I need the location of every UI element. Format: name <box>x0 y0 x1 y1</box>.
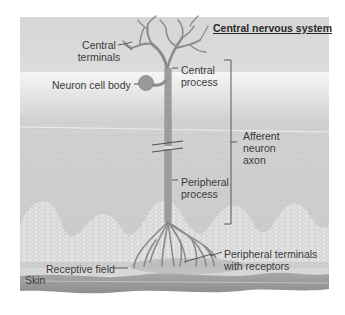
label-peripheral-terminals-line1: Peripheral terminals <box>224 248 317 260</box>
label-skin: Skin <box>25 274 45 286</box>
neuron-cell-body-shape <box>139 76 154 91</box>
afferent-neuron-diagram: Central nervous system Central terminals… <box>0 0 345 315</box>
label-central-terminals-line2: terminals <box>76 51 122 63</box>
label-central-process: Central process <box>181 64 218 88</box>
label-afferent-neuron-axon: Afferent neuron axon <box>243 130 280 166</box>
label-receptive-field: Receptive field <box>46 263 115 275</box>
label-central-terminals-line1: Central <box>76 39 122 51</box>
label-neuron-cell-body: Neuron cell body <box>52 79 131 91</box>
label-peripheral-terminals: Peripheral terminals with receptors <box>224 248 317 272</box>
label-peripheral-process-line1: Peripheral <box>181 176 229 188</box>
label-central-process-line2: process <box>181 76 218 88</box>
label-afferent-neuron-axon-line3: axon <box>243 154 280 166</box>
label-peripheral-process-line2: process <box>181 188 229 200</box>
label-peripheral-terminals-line2: with receptors <box>224 260 317 272</box>
region-title-cns: Central nervous system <box>213 22 332 34</box>
label-central-terminals: Central terminals <box>76 39 122 63</box>
label-afferent-neuron-axon-line1: Afferent <box>243 130 280 142</box>
label-afferent-neuron-axon-line2: neuron <box>243 142 280 154</box>
label-central-process-line1: Central <box>181 64 218 76</box>
label-peripheral-process: Peripheral process <box>181 176 229 200</box>
